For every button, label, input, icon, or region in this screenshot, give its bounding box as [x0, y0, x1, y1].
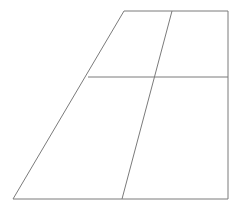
trapezoid-diagram — [0, 0, 243, 209]
figure-canvas — [0, 0, 243, 209]
canvas-background — [0, 0, 243, 209]
